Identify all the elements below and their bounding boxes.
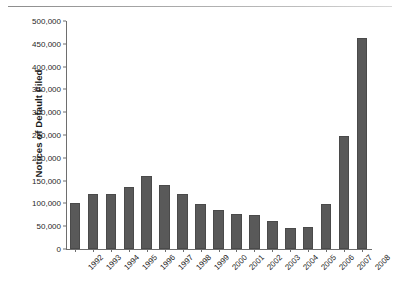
x-axis-tick-label: 2007 <box>355 253 374 272</box>
x-axis-tick-label: 2008 <box>373 253 392 272</box>
bar <box>357 38 368 249</box>
plot-area: 050,000100,000150,000200,000250,000300,0… <box>66 21 371 249</box>
x-axis-tick-label: 1995 <box>140 253 159 272</box>
x-axis-tick-mark <box>308 249 309 252</box>
x-axis-tick-label: 1998 <box>194 253 213 272</box>
x-axis-tick-mark <box>254 249 255 252</box>
x-axis-tick-label: 2001 <box>248 253 267 272</box>
y-axis-tick-label: 400,000 <box>10 62 66 71</box>
y-axis-tick-mark <box>63 112 66 113</box>
x-axis-tick-mark <box>272 249 273 252</box>
y-axis-tick-label: 100,000 <box>10 199 66 208</box>
x-axis-tick-mark <box>219 249 220 252</box>
x-axis-tick-label: 2004 <box>301 253 320 272</box>
y-axis-tick-mark <box>63 249 66 250</box>
bar <box>88 194 99 249</box>
x-axis-tick-label: 1999 <box>212 253 231 272</box>
bar <box>141 176 152 249</box>
x-axis-tick-mark <box>362 249 363 252</box>
y-axis-tick-label: 500,000 <box>10 17 66 26</box>
y-axis-tick-label: 300,000 <box>10 108 66 117</box>
y-axis-tick-label: 0 <box>10 245 66 254</box>
x-axis-tick-mark <box>147 249 148 252</box>
bar <box>285 228 296 249</box>
y-axis-tick-label: 450,000 <box>10 39 66 48</box>
x-axis-tick-label: 2000 <box>230 253 249 272</box>
x-axis-tick-mark <box>201 249 202 252</box>
y-axis-tick-mark <box>63 89 66 90</box>
bar <box>231 214 242 249</box>
x-axis-tick-mark <box>290 249 291 252</box>
y-axis-tick-mark <box>63 43 66 44</box>
x-axis-tick-mark <box>93 249 94 252</box>
x-axis-tick-label: 2005 <box>319 253 338 272</box>
x-axis-tick-mark <box>344 249 345 252</box>
x-axis-tick-label: 2006 <box>337 253 356 272</box>
y-axis-tick-mark <box>63 21 66 22</box>
x-axis-tick-label: 2003 <box>284 253 303 272</box>
y-axis-tick-label: 250,000 <box>10 131 66 140</box>
bar <box>106 194 117 249</box>
y-axis-tick-label: 200,000 <box>10 153 66 162</box>
bar <box>159 185 170 249</box>
bar <box>267 221 278 249</box>
bar <box>249 215 260 249</box>
bar <box>339 136 350 249</box>
x-axis-tick-mark <box>165 249 166 252</box>
x-axis-tick-label: 1996 <box>158 253 177 272</box>
y-axis-tick-mark <box>63 157 66 158</box>
bar <box>213 210 224 249</box>
bar <box>124 187 135 249</box>
x-axis-tick-mark <box>129 249 130 252</box>
bar <box>195 204 206 249</box>
y-axis-tick-mark <box>63 180 66 181</box>
y-axis-tick-mark <box>63 226 66 227</box>
x-axis-tick-label: 1992 <box>86 253 105 272</box>
bar <box>303 227 314 249</box>
x-axis-tick-mark <box>326 249 327 252</box>
y-axis-tick-mark <box>63 66 66 67</box>
y-axis-tick-mark <box>63 135 66 136</box>
x-axis-tick-mark <box>75 249 76 252</box>
x-axis-tick-label: 2002 <box>266 253 285 272</box>
y-axis-tick-label: 150,000 <box>10 176 66 185</box>
x-axis-tick-mark <box>236 249 237 252</box>
y-axis-tick-label: 350,000 <box>10 85 66 94</box>
bar <box>177 194 188 249</box>
x-axis-tick-mark <box>111 249 112 252</box>
y-axis-tick-label: 50,000 <box>10 222 66 231</box>
bar <box>70 203 81 249</box>
bar <box>321 204 332 249</box>
x-axis-tick-label: 1993 <box>104 253 123 272</box>
x-axis-tick-label: 1994 <box>122 253 141 272</box>
y-axis-tick-mark <box>63 203 66 204</box>
x-axis-tick-mark <box>183 249 184 252</box>
bar-chart-figure: Notices of Default Filed 050,000100,0001… <box>0 0 399 286</box>
x-axis-tick-label: 1997 <box>176 253 195 272</box>
